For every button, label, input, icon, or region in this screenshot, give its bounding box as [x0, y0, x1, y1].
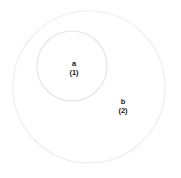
set-label-b-count: (2) [107, 107, 139, 116]
set-label-b: b (2) [107, 98, 139, 116]
set-label-a-count: (1) [58, 69, 90, 78]
venn-diagram-canvas: a (1) b (2) [0, 0, 181, 178]
set-label-a: a (1) [58, 60, 90, 78]
venn-diagram-svg [0, 0, 181, 178]
